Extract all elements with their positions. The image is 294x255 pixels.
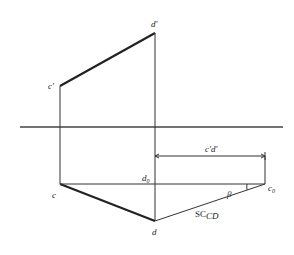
label-true-length-sub: CD	[206, 211, 219, 221]
top-view-line-cd	[60, 184, 155, 221]
label-c0: c0	[268, 183, 275, 194]
label-d0: d0	[142, 173, 150, 184]
label-c: c	[52, 190, 56, 200]
label-d: d	[152, 227, 157, 237]
front-view-line-c-prime-d-prime	[60, 33, 155, 86]
label-c-prime-d-prime: c′d′	[205, 144, 218, 154]
label-d-prime: d′	[151, 19, 159, 29]
label-true-length: SCCD	[195, 209, 219, 221]
label-d0-sub: 0	[147, 178, 150, 184]
label-beta: β	[226, 189, 232, 199]
label-c-prime: c′	[48, 81, 55, 91]
label-true-length-base: SC	[195, 209, 206, 219]
label-c0-sub: 0	[272, 188, 275, 194]
projection-diagram: d′ c′ c d d0 c0 c′d′ β SCCD	[0, 0, 294, 255]
